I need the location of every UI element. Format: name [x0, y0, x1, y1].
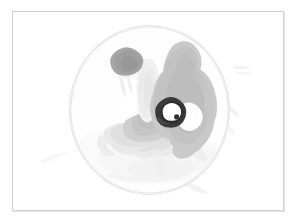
image-viewer: [0, 0, 297, 224]
image-panel-frame[interactable]: [12, 11, 284, 211]
image-canvas[interactable]: [13, 12, 283, 210]
circular-field-of-view[interactable]: [69, 25, 230, 195]
inclusion-core-dot: [174, 114, 179, 119]
tissue-structures-layer: [70, 26, 229, 194]
